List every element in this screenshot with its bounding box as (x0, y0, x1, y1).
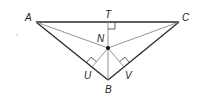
point-n-dot (106, 46, 110, 50)
label-t: T (105, 9, 112, 20)
segment-cb (108, 22, 179, 80)
segment-nv (108, 48, 124, 67)
label-a: A (24, 12, 32, 23)
label-u: U (84, 70, 92, 81)
right-angle-marker-v (120, 57, 130, 62)
geometry-diagram: A T C N U V B (0, 0, 200, 97)
label-n: N (97, 33, 105, 44)
label-v: V (125, 70, 133, 81)
right-angle-marker-u (87, 57, 97, 62)
right-angle-marker-t (108, 22, 115, 29)
segment-ab (36, 22, 108, 80)
artifact-dot (16, 34, 18, 36)
label-c: C (182, 12, 190, 23)
segment-cn (108, 22, 179, 48)
label-b: B (105, 84, 112, 95)
segment-nu (92, 48, 108, 67)
